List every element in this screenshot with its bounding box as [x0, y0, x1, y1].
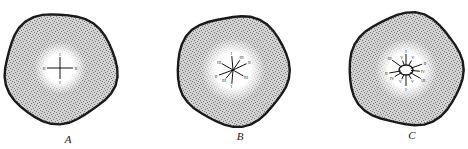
arm-label: V [411, 79, 414, 84]
arm-label: V [400, 55, 403, 60]
cross-section-a: IIIIII [5, 14, 118, 124]
arm-label: V [412, 55, 415, 60]
arm-label: IV [390, 76, 394, 81]
arm-label: III [217, 60, 222, 65]
arm-label: III [388, 56, 393, 61]
arm-label: IV [421, 69, 425, 74]
arm-label: III [240, 55, 245, 60]
arm-label: III [244, 75, 249, 80]
arm-label: III [222, 78, 227, 83]
cross-section-b: IIIIIIIIIIIIIIIIII [178, 16, 290, 127]
figure-canvas: IIIIIIIIIIIIIIIIIIIIIIIIIVVIIIIIIVIIIVIV… [0, 0, 468, 149]
cross-section-c: IVVIIIIIIVIIIVIVIVII [350, 12, 464, 125]
arm-label: III [421, 78, 426, 83]
arm-label: V [399, 79, 402, 84]
